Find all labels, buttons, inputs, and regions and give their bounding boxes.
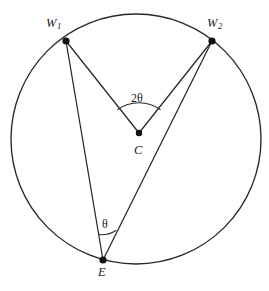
point-dot-c [136,130,142,136]
point-label-w2: W2 [207,17,222,31]
point-label-w1-letter: W [46,16,56,30]
inscribed-angle-label: θ [102,218,108,230]
geometry-figure: W1 W2 C E 2θ θ [0,0,269,291]
point-label-w1: W1 [46,17,61,31]
point-dot-w2 [208,37,215,44]
point-label-w2-letter: W [207,16,217,30]
point-label-w2-subscript: 2 [217,21,222,31]
central-angle-label: 2θ [131,92,143,104]
radius-c-w2 [139,41,212,133]
point-dot-e [99,256,106,263]
point-label-w1-subscript: 1 [56,21,61,31]
point-label-e: E [98,266,106,279]
point-label-c: C [134,144,142,157]
chord-e-w2 [103,41,212,260]
chord-e-w1 [66,41,103,260]
radius-c-w1 [66,41,139,133]
main-circle [11,14,261,264]
point-dot-w1 [62,37,69,44]
